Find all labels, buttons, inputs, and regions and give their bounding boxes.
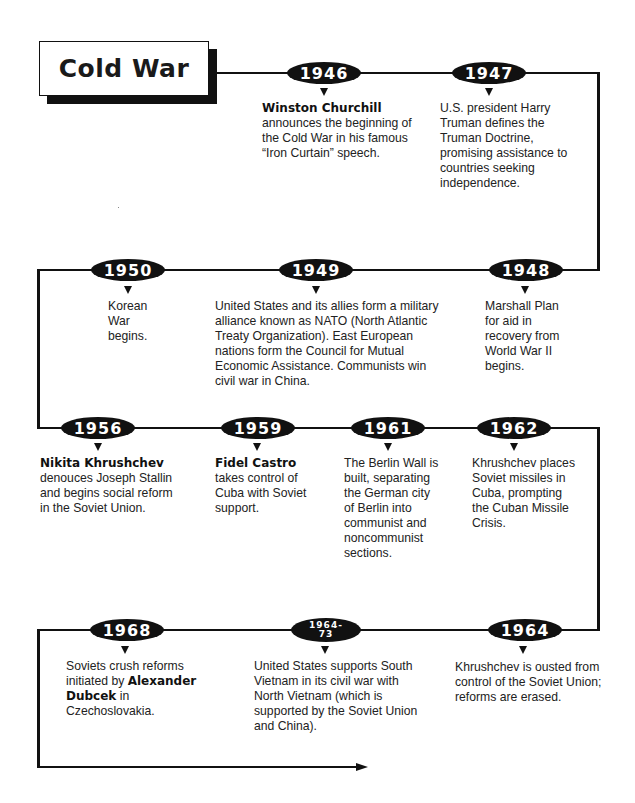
event-1956-person: Nikita Khrushchev — [40, 456, 164, 470]
year-badge-1948: 1948 — [489, 259, 563, 281]
event-1964-73-description: United States supports South Vietnam in … — [254, 659, 419, 734]
year-badge-1946: 1946 — [287, 62, 361, 84]
pointer-triangle-icon — [485, 88, 493, 96]
event-1961-description: The Berlin Wall is built, separating the… — [344, 456, 442, 561]
timeline-line-right1 — [597, 72, 600, 271]
pointer-triangle-icon — [124, 286, 132, 294]
event-1959-description: Fidel Castro takes control of Cuba with … — [215, 456, 310, 516]
year-badge-1964: 1964 — [488, 619, 562, 641]
title-box: Cold War — [39, 41, 209, 96]
speck — [118, 207, 119, 208]
pointer-triangle-icon — [519, 646, 527, 654]
year-badge-1956: 1956 — [61, 417, 135, 439]
year-badge-1947: 1947 — [452, 62, 526, 84]
event-1949-description: United States and its allies form a mili… — [215, 299, 447, 389]
timeline-line-left1 — [37, 269, 40, 429]
pointer-triangle-icon — [521, 286, 529, 294]
timeline-line-bottom — [37, 766, 357, 768]
event-1956-description: Nikita Khrushchev denouces Joseph Stalli… — [40, 456, 180, 516]
pointer-triangle-icon — [253, 443, 261, 451]
event-1964-description: Khrushchev is ousted from control of the… — [455, 660, 605, 705]
year-badge-1961: 1961 — [351, 417, 425, 439]
event-1959-person: Fidel Castro — [215, 456, 296, 470]
year-badge-1950: 1950 — [91, 259, 165, 281]
pointer-triangle-icon — [384, 443, 392, 451]
pointer-triangle-icon — [94, 443, 102, 451]
event-1946-person: Winston Churchill — [262, 101, 382, 115]
pointer-triangle-icon — [121, 646, 129, 654]
year-badge-1949: 1949 — [279, 259, 353, 281]
timeline-end-arrow-icon — [356, 763, 368, 771]
event-1968-description: Soviets crush reforms initiated by Alexa… — [66, 659, 206, 719]
event-1948-description: Marshall Plan for aid in recovery from W… — [485, 299, 565, 374]
pointer-triangle-icon — [312, 286, 320, 294]
event-1962-description: Khrushchev places Soviet missiles in Cub… — [472, 456, 577, 531]
year-badge-1968: 1968 — [90, 619, 164, 641]
event-1947-description: U.S. president Harry Truman defines the … — [440, 101, 570, 191]
timeline-line-row1 — [217, 72, 600, 74]
pointer-triangle-icon — [320, 88, 328, 96]
timeline-line-right2 — [597, 427, 600, 631]
year-badge-1964-73: 1964- 73 — [291, 618, 361, 642]
diagram-title: Cold War — [39, 41, 209, 96]
pointer-triangle-icon — [510, 443, 518, 451]
timeline-line-left2 — [37, 629, 40, 768]
event-1946-description: Winston Churchill announces the beginnin… — [262, 101, 412, 161]
pointer-triangle-icon — [321, 646, 329, 654]
year-badge-1959: 1959 — [221, 417, 295, 439]
year-badge-1962: 1962 — [477, 417, 551, 439]
event-1950-description: Korean War begins. — [108, 299, 158, 344]
